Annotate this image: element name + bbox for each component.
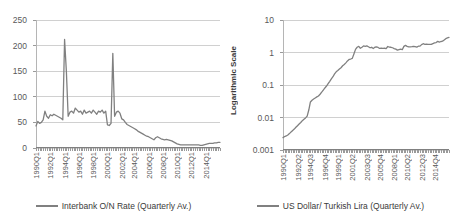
x-axis-tick-label: 2014Q4	[431, 154, 440, 181]
y-axis-tick	[33, 96, 36, 97]
x-axis-tick-label: 2010Q2	[403, 154, 412, 181]
chart-panel-left: 050100150200250 1990Q11992Q11994Q11996Q1…	[0, 0, 227, 223]
y-axis-tick	[33, 122, 36, 123]
legend-left: Interbank O/N Rate (Quarterly Av.)	[0, 201, 227, 211]
x-axis-tick-label: 2004Q1	[130, 152, 139, 179]
x-axis-tick-label: 1990Q1	[279, 154, 288, 181]
x-axis-tick-label: 2003Q3	[363, 154, 372, 181]
x-axis-tick	[449, 150, 450, 153]
y-axis-tick-label: 150	[13, 66, 27, 76]
legend-label-interbank-rate: Interbank O/N Rate (Quarterly Av.)	[62, 201, 192, 211]
y-axis-tick	[33, 71, 36, 72]
y-axis-tick	[33, 45, 36, 46]
y-axis-tick-label: 100	[13, 92, 27, 102]
x-axis-tick-label: 2008Q1	[390, 154, 399, 181]
legend-label-usd-try: US Dollar/ Turkish Lira (Quarterly Av.)	[283, 201, 424, 211]
y-axis-tick-label: 250	[13, 15, 27, 25]
y-axis-tick	[280, 85, 283, 86]
x-axis-tick	[220, 148, 221, 151]
y-axis-tick-label: 1	[269, 48, 274, 58]
y-axis-tick-label: 10	[265, 15, 274, 25]
x-axis-tick-label: 1994Q3	[306, 154, 315, 181]
y-axis-labels-right: 0.0010.010.1110	[227, 20, 280, 150]
y-axis-labels-left: 050100150200250	[0, 20, 33, 148]
data-line	[283, 37, 449, 137]
x-axis-tick-label: 1999Q1	[334, 154, 343, 181]
y-axis-tick	[280, 20, 283, 21]
x-axis-tick-label: 2008Q1	[159, 152, 168, 179]
figure-container: 050100150200250 1990Q11992Q11994Q11996Q1…	[0, 0, 454, 223]
x-axis-tick-label: 1990Q1	[32, 152, 41, 179]
legend-swatch-interbank-rate	[36, 205, 58, 207]
x-axis-tick-label: 1994Q1	[61, 152, 70, 179]
y-axis-tick	[280, 117, 283, 118]
y-axis-tick-label: 0	[22, 143, 27, 153]
x-axis-tick-label: 2005Q4	[376, 154, 385, 181]
y-axis-tick	[280, 52, 283, 53]
x-axis-tick-label: 2002Q1	[118, 152, 127, 179]
series-line-right	[283, 20, 449, 150]
series-line-left	[36, 20, 220, 148]
y-axis-tick	[33, 20, 36, 21]
x-axis-tick-label: 2000Q1	[103, 152, 112, 179]
y-axis-tick-label: 0.001	[253, 145, 274, 155]
legend-right: US Dollar/ Turkish Lira (Quarterly Av.)	[227, 201, 454, 211]
x-axis-tick-label: 2012Q1	[187, 152, 196, 179]
chart-panel-right: Logarithmic Scale 0.0010.010.1110 1990Q1…	[227, 0, 454, 223]
x-axis-tick-label: 1998Q1	[89, 152, 98, 179]
y-axis-tick-label: 50	[18, 117, 27, 127]
data-line	[36, 39, 220, 145]
plot-area-right	[283, 20, 449, 150]
y-axis-tick-label: 200	[13, 41, 27, 51]
x-axis-tick-label: 2012Q3	[418, 154, 427, 181]
x-axis-tick-label: 1992Q1	[46, 152, 55, 179]
x-axis-tick-label: 1996Q4	[321, 154, 330, 181]
x-axis-tick-label: 2006Q1	[145, 152, 154, 179]
legend-swatch-usd-try	[257, 205, 279, 207]
y-axis-tick-label: 0.01	[257, 113, 274, 123]
x-axis-tick-label: 1996Q1	[75, 152, 84, 179]
x-axis-tick-label: 2001Q2	[348, 154, 357, 181]
y-axis-tick-label: 0.1	[262, 80, 274, 90]
plot-area-left	[36, 20, 220, 148]
x-axis-tick-label: 1992Q2	[294, 154, 303, 181]
x-axis-tick-label: 2014Q1	[202, 152, 211, 179]
x-axis-tick-label: 2010Q1	[173, 152, 182, 179]
